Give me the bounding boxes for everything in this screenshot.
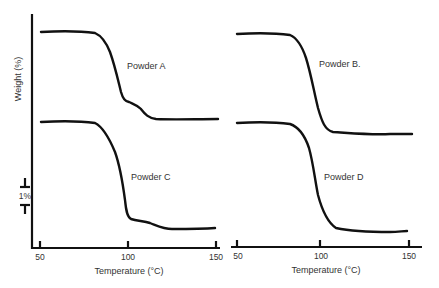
right-x-axis-label: Temperature (°C) — [291, 265, 360, 275]
label-powder-b: Powder B. — [319, 59, 361, 69]
curve-powder-b — [237, 33, 412, 134]
left-tick-label-150: 150 — [209, 252, 223, 262]
label-powder-c: Powder C — [131, 172, 171, 182]
scale-bar-1pct: 1% — [19, 178, 32, 214]
label-powder-a: Powder A — [127, 61, 166, 71]
left-panel: 50 100 150 Temperature (°C) Weight (%) 1… — [13, 14, 223, 276]
curve-powder-a — [41, 31, 218, 119]
scale-bar-label: 1% — [19, 191, 32, 201]
curve-powder-c — [41, 121, 215, 229]
left-tick-label-100: 100 — [121, 252, 135, 262]
curve-powder-d — [237, 122, 407, 232]
y-axis-label: Weight (%) — [13, 57, 23, 101]
left-x-axis-label: Temperature (°C) — [94, 266, 163, 276]
right-tick-label-150: 150 — [402, 251, 416, 261]
right-panel: 50 100 150 Temperature (°C) Powder B. Po… — [231, 33, 422, 275]
tga-figure: 50 100 150 Temperature (°C) Weight (%) 1… — [0, 0, 439, 288]
left-tick-label-50: 50 — [35, 252, 45, 262]
right-tick-label-100: 100 — [314, 251, 328, 261]
label-powder-d: Powder D — [324, 172, 364, 182]
right-tick-label-50: 50 — [233, 251, 243, 261]
